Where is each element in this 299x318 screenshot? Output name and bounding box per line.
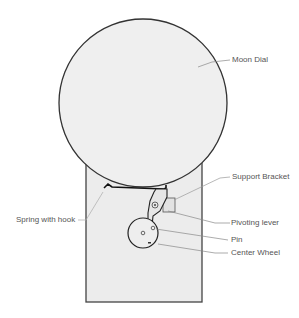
- pivot-screw-center: [154, 204, 156, 206]
- label-pivoting-lever: Pivoting lever: [231, 218, 279, 227]
- label-pin: Pin: [231, 235, 243, 244]
- label-center-wheel: Center Wheel: [231, 248, 280, 257]
- label-spring-with-hook: Spring with hook: [16, 215, 75, 224]
- center-wheel-shape: [128, 218, 158, 248]
- label-moon-dial: Moon Dial: [232, 55, 268, 64]
- label-support-bracket: Support Bracket: [232, 172, 289, 181]
- mechanism-diagram: [0, 0, 299, 318]
- wheel-mark: [148, 242, 151, 244]
- moon-dial-disc: [59, 19, 227, 187]
